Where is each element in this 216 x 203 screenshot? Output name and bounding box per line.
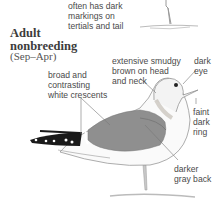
label-back: darker gray back bbox=[174, 164, 211, 184]
label-line: white crescents bbox=[48, 90, 107, 100]
label-line: dark bbox=[194, 56, 211, 66]
label-line: darker bbox=[174, 164, 211, 174]
label-line: broad and bbox=[48, 70, 107, 80]
upper-bird-legs bbox=[140, 0, 198, 29]
season-label: (Sep–Apr) bbox=[10, 50, 56, 62]
label-line: ring bbox=[193, 127, 210, 137]
label-line: gray back bbox=[174, 174, 211, 184]
label-head: extensive smudgy brown on head and neck bbox=[112, 56, 181, 86]
label-line: faint bbox=[193, 107, 210, 117]
label-bill: faint dark ring bbox=[193, 107, 210, 137]
label-line: and neck bbox=[112, 76, 181, 86]
label-wing: broad and contrasting white crescents bbox=[48, 70, 107, 100]
label-line: brown on head bbox=[112, 66, 181, 76]
top-note-line: often has dark bbox=[68, 1, 123, 11]
label-line: dark bbox=[193, 117, 210, 127]
top-note-line: markings on bbox=[68, 11, 123, 21]
label-eye: dark eye bbox=[194, 56, 211, 76]
label-line: eye bbox=[194, 66, 211, 76]
label-line: contrasting bbox=[48, 80, 107, 90]
label-line: extensive smudgy bbox=[112, 56, 181, 66]
